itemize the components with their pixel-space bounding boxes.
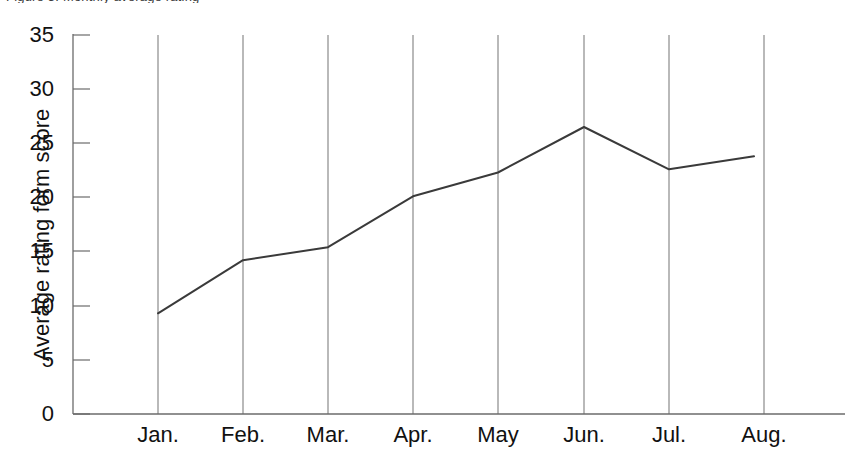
- x-tick-label-jul: Jul.: [624, 424, 714, 446]
- y-tick-label-35: 35: [8, 24, 54, 46]
- x-tick-label-may: May: [453, 424, 543, 446]
- chart-page: Figure 3. Monthly average rating: [0, 0, 856, 458]
- y-tick-label-10: 10: [8, 295, 54, 317]
- x-tick-label-jun: Jun.: [539, 424, 629, 446]
- y-tick-label-30: 30: [8, 78, 54, 100]
- x-tick-label-apr: Apr.: [368, 424, 458, 446]
- x-tick-label-mar: Mar.: [283, 424, 373, 446]
- data-series-line: [158, 127, 754, 313]
- x-tick-label-aug: Aug.: [719, 424, 809, 446]
- x-tick-label-jan: Jan.: [113, 424, 203, 446]
- line-chart: Average rating form score 35 30 25 20 15…: [0, 0, 856, 458]
- vertical-gridlines: [158, 35, 764, 414]
- y-tick-label-20: 20: [8, 186, 54, 208]
- y-tick-label-15: 15: [8, 240, 54, 262]
- y-axis-ticks: [73, 35, 90, 414]
- y-tick-label-25: 25: [8, 132, 54, 154]
- y-tick-label-0: 0: [8, 403, 54, 425]
- y-tick-label-5: 5: [8, 349, 54, 371]
- x-tick-label-feb: Feb.: [198, 424, 288, 446]
- chart-canvas: [0, 0, 856, 458]
